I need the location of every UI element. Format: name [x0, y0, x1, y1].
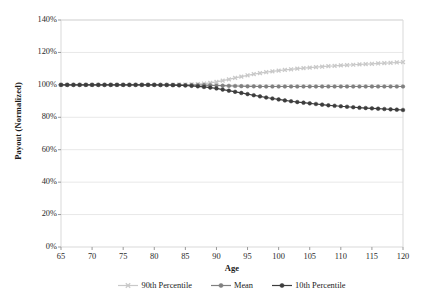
- x-tick-label: 120: [390, 253, 416, 261]
- legend-marker-icon: [118, 281, 138, 290]
- chart-legend: 90th PercentileMean10th Percentile: [61, 281, 403, 290]
- x-tick-label: 65: [48, 253, 74, 261]
- legend-item-mean[interactable]: Mean: [211, 281, 253, 290]
- legend-marker-icon: [211, 281, 231, 290]
- x-tick-label: 105: [297, 253, 323, 261]
- legend-label: 90th Percentile: [141, 281, 191, 290]
- x-tick-label: 90: [203, 253, 229, 261]
- x-tick-label: 70: [79, 253, 105, 261]
- x-tick-label: 110: [328, 253, 354, 261]
- legend-marker-icon: [272, 281, 292, 290]
- x-axis-title: Age: [61, 263, 403, 273]
- x-tick-label: 115: [359, 253, 385, 261]
- x-tick-label: 80: [141, 253, 167, 261]
- x-tick-label: 95: [235, 253, 261, 261]
- x-tick-label: 100: [266, 253, 292, 261]
- legend-label: Mean: [234, 281, 253, 290]
- legend-label: 10th Percentile: [295, 281, 345, 290]
- legend-item-90th-percentile[interactable]: 90th Percentile: [118, 281, 191, 290]
- x-tick-label: 75: [110, 253, 136, 261]
- y-axis-title: Payout (Normalized): [13, 51, 23, 191]
- legend-item-10th-percentile[interactable]: 10th Percentile: [272, 281, 345, 290]
- x-tick-label: 85: [172, 253, 198, 261]
- payout-normalized-line-chart: 0%20%40%60%80%100%120%140% 6570758085909…: [0, 0, 425, 302]
- x-axis-tick-labels: 65707580859095100105110115120: [0, 0, 425, 302]
